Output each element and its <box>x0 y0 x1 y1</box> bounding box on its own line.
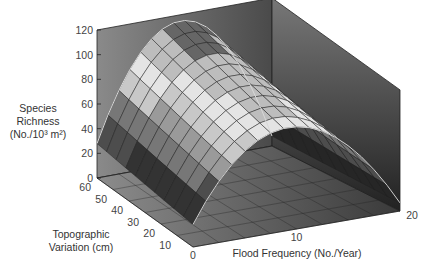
x-tick-label: 0 <box>190 249 196 261</box>
z-tick-label: 20 <box>81 147 93 159</box>
z-tick-label: 100 <box>75 49 93 61</box>
x-axis-label: Flood Frequency (No./Year) <box>232 247 361 259</box>
z-tick-label: 80 <box>81 73 93 85</box>
z-tick-label: 60 <box>81 98 93 110</box>
x-tick-label: 20 <box>406 209 418 221</box>
z-tick-label: 120 <box>75 24 93 36</box>
y-tick-label: 20 <box>143 227 155 239</box>
y-tick-label: 60 <box>79 181 91 193</box>
z-axis-label: Species <box>19 102 56 114</box>
z-tick-label: 40 <box>81 123 93 135</box>
z-axis-label: (No./10³ m²) <box>10 128 67 140</box>
y-tick-label: 10 <box>159 239 171 251</box>
x-tick-label: 10 <box>291 231 303 243</box>
y-tick-label: 40 <box>111 204 123 216</box>
y-tick-label: 50 <box>95 193 107 205</box>
y-tick-label: 30 <box>127 216 139 228</box>
surface-chart: 02040608010012060504030201001020 Species… <box>0 0 421 276</box>
y-axis-label: Topographic <box>52 228 109 240</box>
y-axis-label: Variation (cm) <box>49 241 114 253</box>
z-axis-label: Richness <box>16 115 59 127</box>
